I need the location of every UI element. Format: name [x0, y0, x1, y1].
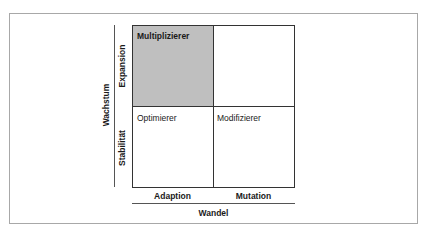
- x-axis-category-mutation: Mutation: [213, 191, 294, 201]
- x-axis-category-adaption: Adaption: [132, 191, 213, 201]
- y-axis-line: [114, 25, 115, 187]
- quadrant-label-optimierer: Optimierer: [137, 113, 177, 123]
- y-axis-title: Wachstum: [101, 80, 111, 130]
- quadrant-top-right: [213, 25, 294, 106]
- x-axis-title: Wandel: [132, 208, 295, 218]
- y-axis-category-expansion: Expansion: [117, 41, 127, 91]
- grid-divider-horizontal: [132, 106, 295, 107]
- x-axis-line: [132, 203, 295, 204]
- quadrant-label-multiplizierer: Multiplizierer: [137, 31, 189, 41]
- quadrant-label-modifizierer: Modifizierer: [217, 113, 261, 123]
- y-axis-category-stabilitaet: Stabilität: [117, 123, 127, 173]
